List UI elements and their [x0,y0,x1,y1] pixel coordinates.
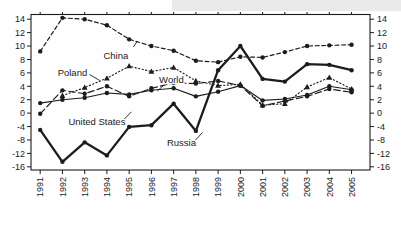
marker-united-states-dot-icon [194,81,198,85]
marker-china-dot-icon [216,60,220,64]
marker-world-dot-icon [105,91,109,95]
y-tick-label-left: 8 [20,55,25,65]
marker-china-dot-icon [105,23,109,27]
y-tick-label-right: -4 [377,122,385,132]
y-tick-label-right: -12 [377,149,390,159]
series-label-world: World [159,74,184,85]
marker-united-states-dot-icon [149,86,153,90]
marker-china-dot-icon [238,55,242,59]
x-tick-label: 1994 [102,177,112,197]
marker-poland-triangle-icon [126,63,132,68]
marker-russia-dot-icon [194,129,198,133]
annotation-leader-china [133,41,137,47]
marker-china-dot-icon [194,59,198,63]
y-tick-label-left: 12 [15,28,25,38]
marker-world-dot-icon [260,98,264,102]
x-tick-label: 1998 [191,177,201,197]
x-tick-label: 2003 [302,177,312,197]
scan-shadow [172,0,401,11]
marker-russia-dot-icon [305,62,309,66]
y-tick-label-left: 2 [20,95,25,105]
y-tick-label-left: 4 [20,82,25,92]
x-tick-label: 1992 [58,177,68,197]
x-tick-label: 1991 [35,177,45,197]
y-tick-label-right: 14 [377,14,387,24]
marker-world-dot-icon [216,89,220,93]
marker-china-dot-icon [60,16,64,20]
x-tick-label: 2005 [347,177,357,197]
marker-world-dot-icon [171,86,175,90]
series-line-china [40,18,351,62]
x-tick-label: 2000 [236,177,246,197]
marker-russia-dot-icon [60,160,64,164]
marker-world-dot-icon [194,94,198,98]
marker-china-dot-icon [149,44,153,48]
marker-united-states-dot-icon [349,90,353,94]
y-tick-label-left: 0 [20,108,25,118]
marker-russia-dot-icon [349,68,353,72]
x-tick-label: 2004 [325,177,335,197]
marker-poland-triangle-icon [326,74,332,79]
marker-china-dot-icon [38,49,42,53]
marker-russia-dot-icon [238,44,242,48]
marker-world-dot-icon [82,96,86,100]
y-tick-label-left: 14 [15,14,25,24]
marker-united-states-dot-icon [283,99,287,103]
marker-poland-triangle-icon [104,75,110,80]
marker-poland-triangle-icon [304,84,310,89]
marker-china-dot-icon [327,43,331,47]
marker-united-states-dot-icon [327,87,331,91]
x-tick-label: 2002 [280,177,290,197]
marker-china-dot-icon [127,37,131,41]
marker-russia-dot-icon [216,68,220,72]
marker-china-dot-icon [260,55,264,59]
marker-russia-dot-icon [327,63,331,67]
y-tick-label-right: 12 [377,28,387,38]
marker-poland-triangle-icon [171,64,177,69]
y-tick-label-right: -16 [377,162,390,172]
annotation-leader-russia [195,132,203,140]
marker-russia-dot-icon [127,125,131,129]
marker-china-dot-icon [82,17,86,21]
series-label-poland: Poland [58,67,88,78]
marker-poland-triangle-icon [60,93,66,98]
y-tick-label-right: 10 [377,41,387,51]
marker-russia-dot-icon [38,128,42,132]
y-tick-label-right: 4 [377,82,382,92]
marker-russia-dot-icon [82,140,86,144]
marker-united-states-dot-icon [38,112,42,116]
marker-world-dot-icon [60,98,64,102]
series-label-russia: Russia [167,137,197,148]
x-tick-label: 1997 [169,177,179,197]
y-tick-label-left: 6 [20,68,25,78]
marker-china-dot-icon [171,49,175,53]
marker-world-dot-icon [38,101,42,105]
marker-china-dot-icon [349,42,353,46]
y-tick-label-right: 6 [377,68,382,78]
marker-united-states-dot-icon [60,88,64,92]
y-tick-label-left: -4 [17,122,25,132]
marker-united-states-dot-icon [305,94,309,98]
annotation-leader-poland [90,74,100,80]
y-tick-label-left: -8 [17,135,25,145]
series-label-united-states: United States [68,116,125,127]
marker-china-dot-icon [283,50,287,54]
y-tick-label-right: 0 [377,108,382,118]
marker-united-states-dot-icon [216,79,220,83]
x-tick-label: 1999 [213,177,223,197]
y-tick-label-right: 2 [377,95,382,105]
y-tick-label-left: -16 [12,162,25,172]
y-tick-label-left: -12 [12,149,25,159]
series-label-china: China [103,50,129,61]
gdp-growth-line-chart: 1414121210108866442200-4-4-8-8-12-12-16-… [0,0,401,235]
marker-united-states-dot-icon [238,83,242,87]
x-tick-label: 1996 [147,177,157,197]
marker-united-states-dot-icon [105,84,109,88]
marker-russia-dot-icon [171,102,175,106]
marker-united-states-dot-icon [260,104,264,108]
x-tick-label: 2001 [258,177,268,197]
marker-china-dot-icon [305,44,309,48]
marker-united-states-dot-icon [127,94,131,98]
chart-figure: 1414121210108866442200-4-4-8-8-12-12-16-… [0,0,401,235]
x-tick-label: 1995 [124,177,134,197]
